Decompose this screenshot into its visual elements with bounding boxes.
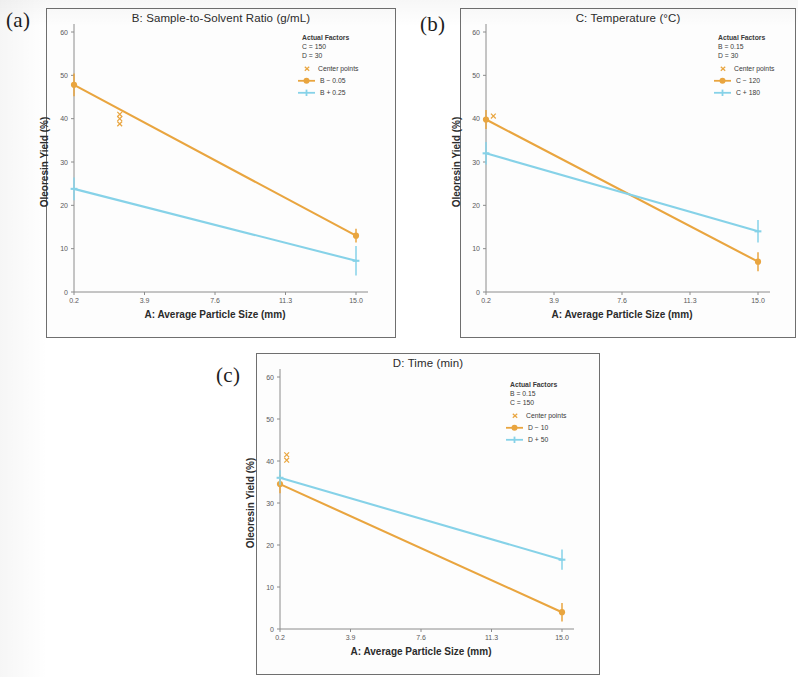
svg-text:10: 10 — [60, 245, 68, 252]
svg-text:Oleoresin Yield (%): Oleoresin Yield (%) — [451, 117, 462, 208]
panel-a: (a) B: Sample-to-Solvent Ratio (g/mL) 01… — [0, 0, 400, 345]
svg-text:0.2: 0.2 — [275, 634, 285, 641]
svg-text:C = 150: C = 150 — [302, 43, 326, 50]
svg-text:11.3: 11.3 — [485, 634, 498, 641]
svg-text:11.3: 11.3 — [279, 297, 292, 304]
panel-b: (b) C: Temperature (°C) 01020304050600.2… — [400, 0, 798, 345]
svg-text:30: 30 — [60, 159, 68, 166]
svg-text:7.6: 7.6 — [416, 634, 426, 641]
svg-text:A: Average Particle Size (mm): A: Average Particle Size (mm) — [552, 309, 693, 320]
panel-a-plot: 01020304050600.23.97.611.315.0A: Average… — [0, 0, 400, 345]
svg-text:7.6: 7.6 — [617, 297, 627, 304]
svg-text:10: 10 — [472, 245, 480, 252]
panel-c-plot: 01020304050600.23.97.611.315.0A: Average… — [200, 345, 600, 677]
svg-text:D = 30: D = 30 — [302, 52, 322, 59]
svg-text:D − 10: D − 10 — [528, 424, 548, 431]
svg-text:A: Average Particle Size (mm): A: Average Particle Size (mm) — [145, 309, 286, 320]
svg-text:B − 0.05: B − 0.05 — [320, 77, 346, 84]
svg-text:C − 120: C − 120 — [736, 77, 760, 84]
svg-text:50: 50 — [472, 72, 480, 79]
svg-text:3.9: 3.9 — [346, 634, 356, 641]
svg-text:50: 50 — [60, 72, 68, 79]
svg-text:20: 20 — [472, 202, 480, 209]
svg-text:20: 20 — [60, 202, 68, 209]
svg-text:0: 0 — [476, 289, 480, 296]
svg-text:15.0: 15.0 — [751, 297, 765, 304]
svg-text:Oleoresin Yield (%): Oleoresin Yield (%) — [39, 117, 50, 208]
svg-text:3.9: 3.9 — [140, 297, 150, 304]
svg-text:10: 10 — [266, 584, 274, 591]
svg-text:Actual Factors: Actual Factors — [718, 34, 765, 41]
svg-text:Actual Factors: Actual Factors — [510, 381, 557, 388]
svg-text:7.6: 7.6 — [210, 297, 220, 304]
svg-text:40: 40 — [60, 115, 68, 122]
svg-text:C = 150: C = 150 — [510, 399, 534, 406]
svg-text:40: 40 — [266, 458, 274, 465]
svg-text:C + 180: C + 180 — [736, 89, 760, 96]
svg-text:B = 0.15: B = 0.15 — [510, 390, 536, 397]
svg-text:15.0: 15.0 — [349, 297, 363, 304]
svg-text:Center points: Center points — [318, 65, 359, 73]
svg-text:D = 30: D = 30 — [718, 52, 738, 59]
svg-text:60: 60 — [266, 374, 274, 381]
svg-text:30: 30 — [472, 159, 480, 166]
svg-text:Center points: Center points — [526, 412, 567, 420]
svg-text:20: 20 — [266, 542, 274, 549]
panel-c: (c) D: Time (min) 01020304050600.23.97.6… — [200, 345, 600, 677]
svg-text:B = 0.15: B = 0.15 — [718, 43, 744, 50]
svg-text:A: Average Particle Size (mm): A: Average Particle Size (mm) — [351, 646, 492, 657]
panel-b-plot: 01020304050600.23.97.611.315.0A: Average… — [400, 0, 798, 345]
svg-text:0.2: 0.2 — [69, 297, 79, 304]
svg-text:0: 0 — [270, 626, 274, 633]
svg-text:40: 40 — [472, 115, 480, 122]
svg-text:D + 50: D + 50 — [528, 436, 548, 443]
svg-text:60: 60 — [60, 29, 68, 36]
svg-text:0.2: 0.2 — [481, 297, 491, 304]
svg-text:11.3: 11.3 — [683, 297, 696, 304]
svg-text:B + 0.25: B + 0.25 — [320, 89, 346, 96]
svg-text:50: 50 — [266, 416, 274, 423]
svg-text:15.0: 15.0 — [555, 634, 569, 641]
svg-text:0: 0 — [64, 289, 68, 296]
svg-text:3.9: 3.9 — [549, 297, 559, 304]
svg-text:Oleoresin Yield (%): Oleoresin Yield (%) — [245, 458, 256, 549]
svg-text:Actual Factors: Actual Factors — [302, 34, 349, 41]
svg-text:Center points: Center points — [734, 65, 775, 73]
svg-text:60: 60 — [472, 29, 480, 36]
svg-text:30: 30 — [266, 500, 274, 507]
